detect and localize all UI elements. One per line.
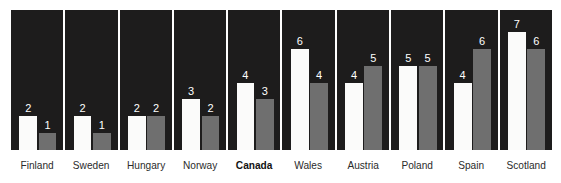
- bar-gray-canada: 3: [256, 99, 274, 150]
- panel-sweden: 21: [65, 10, 117, 150]
- panel-strip: 21212232436445554676: [11, 10, 552, 150]
- bar-white-austria: 4: [345, 83, 363, 150]
- bar-value-label: 2: [147, 102, 165, 116]
- category-label-wales: Wales: [285, 158, 333, 178]
- panel-norway: 32: [174, 10, 226, 150]
- bar-value-label: 6: [291, 35, 309, 49]
- bar-value-label: 1: [39, 119, 57, 133]
- panel-wales: 64: [282, 10, 334, 150]
- bar-white-hungary: 2: [128, 116, 146, 150]
- bar-value-label: 5: [419, 52, 437, 66]
- bar-value-label: 2: [202, 102, 220, 116]
- bar-group: 32: [174, 10, 226, 150]
- bar-value-label: 3: [182, 85, 200, 99]
- bar-value-label: 7: [508, 18, 526, 32]
- bar-group: 46: [445, 10, 497, 150]
- bar-white-sweden: 2: [74, 116, 92, 150]
- bar-group: 21: [11, 10, 63, 150]
- bar-value-label: 2: [74, 102, 92, 116]
- category-label-canada: Canada: [230, 158, 278, 178]
- bar-gray-norway: 2: [202, 116, 220, 150]
- bar-group: 76: [500, 10, 552, 150]
- category-label-sweden: Sweden: [67, 158, 115, 178]
- bar-value-label: 4: [310, 69, 328, 83]
- small-multiples-bar-chart: 21212232436445554676 FinlandSwedenHungar…: [0, 0, 561, 183]
- bar-value-label: 3: [256, 85, 274, 99]
- bar-value-label: 4: [345, 69, 363, 83]
- bar-value-label: 4: [454, 69, 472, 83]
- bar-gray-hungary: 2: [147, 116, 165, 150]
- panel-spain: 46: [445, 10, 497, 150]
- bar-gray-austria: 5: [364, 66, 382, 150]
- bar-value-label: 5: [399, 52, 417, 66]
- bar-white-scotland: 7: [508, 32, 526, 150]
- panel-austria: 45: [337, 10, 389, 150]
- bar-value-label: 2: [128, 102, 146, 116]
- bar-value-label: 6: [473, 35, 491, 49]
- bar-value-label: 1: [93, 119, 111, 133]
- bar-gray-wales: 4: [310, 83, 328, 150]
- bar-value-label: 4: [237, 69, 255, 83]
- bar-white-canada: 4: [237, 83, 255, 150]
- bar-group: 55: [391, 10, 443, 150]
- category-label-spain: Spain: [447, 158, 495, 178]
- bar-group: 22: [120, 10, 172, 150]
- bar-gray-sweden: 1: [93, 133, 111, 150]
- panel-canada: 43: [228, 10, 280, 150]
- panel-finland: 21: [11, 10, 63, 150]
- bar-gray-finland: 1: [39, 133, 57, 150]
- bar-gray-poland: 5: [419, 66, 437, 150]
- bar-value-label: 6: [527, 35, 545, 49]
- bar-white-poland: 5: [399, 66, 417, 150]
- category-label-row: FinlandSwedenHungaryNorwayCanadaWalesAus…: [11, 158, 552, 178]
- bar-white-wales: 6: [291, 49, 309, 150]
- bar-white-spain: 4: [454, 83, 472, 150]
- bar-white-norway: 3: [182, 99, 200, 150]
- bar-group: 64: [282, 10, 334, 150]
- bar-group: 21: [65, 10, 117, 150]
- category-label-austria: Austria: [339, 158, 387, 178]
- category-label-norway: Norway: [176, 158, 224, 178]
- bar-group: 43: [228, 10, 280, 150]
- panel-poland: 55: [391, 10, 443, 150]
- category-label-finland: Finland: [13, 158, 61, 178]
- bar-group: 45: [337, 10, 389, 150]
- bar-value-label: 5: [364, 52, 382, 66]
- bar-white-finland: 2: [19, 116, 37, 150]
- category-label-poland: Poland: [393, 158, 441, 178]
- category-label-scotland: Scotland: [502, 158, 550, 178]
- category-label-hungary: Hungary: [122, 158, 170, 178]
- panel-hungary: 22: [120, 10, 172, 150]
- bar-value-label: 2: [19, 102, 37, 116]
- panel-scotland: 76: [500, 10, 552, 150]
- bar-gray-spain: 6: [473, 49, 491, 150]
- bar-gray-scotland: 6: [527, 49, 545, 150]
